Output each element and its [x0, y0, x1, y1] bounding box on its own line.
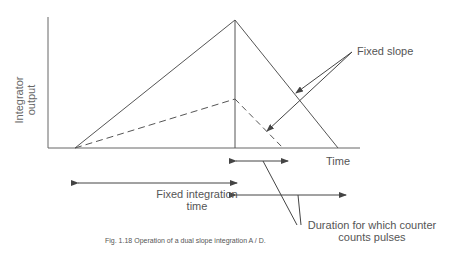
dashed-rise — [75, 99, 235, 148]
duration-line2: counts pulses — [302, 231, 442, 243]
solid-rise — [75, 20, 235, 148]
x-axis-label: Time — [326, 155, 350, 167]
fixed-slope-pointer-2 — [267, 52, 352, 131]
y-axis-label-line1: Integrator — [13, 70, 25, 130]
duration-label: Duration for which counter counts pulses — [302, 219, 442, 243]
figure-caption: Fig. 1.18 Operation of a dual slope inte… — [105, 237, 266, 244]
duration-pointer-2 — [298, 195, 301, 225]
y-axis-label-line2: output — [25, 70, 37, 130]
duration-line1: Duration for which counter — [302, 219, 442, 231]
fixed-integration-label: Fixed integration time — [152, 188, 242, 212]
solid-fall — [235, 20, 338, 148]
fixed-integration-line2: time — [152, 200, 242, 212]
fixed-integration-line1: Fixed integration — [152, 188, 242, 200]
fixed-slope-label: Fixed slope — [357, 45, 413, 57]
fixed-slope-pointer-1 — [296, 52, 352, 93]
duration-pointer-1 — [263, 161, 297, 225]
y-axis-label: Integrator output — [13, 70, 37, 130]
